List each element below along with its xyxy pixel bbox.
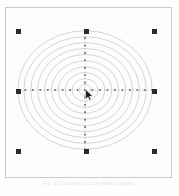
cursor-layer [6, 8, 171, 177]
canvas-frame[interactable] [5, 7, 172, 178]
drawing-app-window: Fig. 1 Concentric circle field diagram [0, 0, 179, 196]
caption-text: Fig. 1 Concentric circle field diagram [5, 180, 172, 187]
caption-strip: Fig. 1 Concentric circle field diagram [5, 180, 172, 194]
arrow-cursor [85, 89, 94, 101]
